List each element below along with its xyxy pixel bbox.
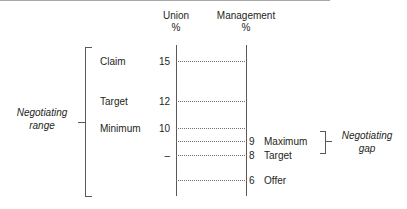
union-row-label-target: Target — [100, 96, 128, 107]
column-header-union-unit: % — [146, 22, 206, 34]
union-row-value-claim: 15 — [148, 56, 170, 67]
dotted-line-9 — [176, 141, 247, 143]
negotiating-gap-bracket-tick — [325, 141, 332, 142]
negotiating-range-bracket — [85, 47, 92, 197]
management-row-value-target: 8 — [249, 150, 255, 161]
union-row-label-minimum: Minimum — [100, 123, 141, 134]
negotiating-gap-label-line2: gap — [332, 142, 402, 155]
diagram-canvas: Union % Management % Claim 15 Target 12 … — [0, 0, 407, 209]
union-row-label-claim: Claim — [100, 56, 126, 67]
union-row-value-dash: – — [148, 150, 170, 161]
column-header-union-title: Union — [146, 10, 206, 22]
dotted-line-6 — [176, 180, 247, 182]
management-axis-line — [246, 45, 247, 196]
management-row-label-target: Target — [264, 150, 292, 161]
negotiating-range-label-line1: Negotiating — [8, 106, 76, 119]
column-header-management: Management % — [206, 10, 286, 34]
negotiating-range-label: Negotiating range — [8, 106, 76, 132]
dotted-line-15 — [176, 61, 247, 63]
management-row-label-offer: Offer — [264, 175, 286, 186]
negotiating-gap-bracket — [320, 131, 326, 154]
union-row-value-target: 12 — [148, 96, 170, 107]
management-row-value-maximum: 9 — [249, 136, 255, 147]
dotted-line-8 — [176, 155, 247, 157]
negotiating-range-bracket-tick — [78, 122, 85, 123]
union-axis-line — [176, 45, 177, 196]
negotiating-range-label-line2: range — [8, 119, 76, 132]
dotted-line-12 — [176, 101, 247, 103]
negotiating-gap-label-line1: Negotiating — [332, 129, 402, 142]
negotiating-gap-label: Negotiating gap — [332, 129, 402, 155]
column-header-management-unit: % — [206, 22, 286, 34]
management-row-value-offer: 6 — [249, 175, 255, 186]
union-row-value-minimum: 10 — [148, 123, 170, 134]
column-header-union: Union % — [146, 10, 206, 34]
management-row-label-maximum: Maximum — [264, 136, 307, 147]
dotted-line-10 — [176, 128, 247, 130]
top-divider-rule — [0, 0, 330, 1]
column-header-management-title: Management — [206, 10, 286, 22]
